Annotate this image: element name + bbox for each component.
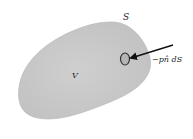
surface-element <box>121 53 130 65</box>
diagram-canvas <box>0 0 193 139</box>
control-volume-body <box>19 22 151 119</box>
force-label: −pn̂ dS <box>152 55 182 64</box>
volume-label: V <box>72 71 78 80</box>
surface-label: S <box>123 12 129 22</box>
